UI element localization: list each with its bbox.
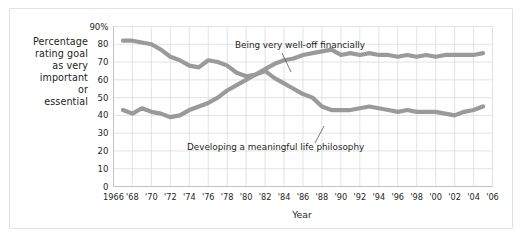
x-tick-label: '02 <box>448 192 461 202</box>
x-tick-label: '82 <box>259 192 272 202</box>
x-tick-label: '86 <box>297 192 310 202</box>
x-axis-tick-labels: 1966'68'70'72'74'76'78'80'82'84'86'88'90… <box>103 192 499 202</box>
annotation-leader-line <box>315 126 324 143</box>
x-tick-label: '94 <box>372 192 385 202</box>
y-tick-label: 60 <box>98 75 109 85</box>
x-tick-label: '78 <box>221 192 234 202</box>
x-tick-label: '92 <box>354 192 367 202</box>
x-tick-label: '72 <box>164 192 177 202</box>
y-tick-label: 80 <box>98 39 109 49</box>
y-tick-label: 90% <box>89 22 108 32</box>
x-tick-label: '68 <box>126 192 139 202</box>
y-tick-label: 10 <box>98 164 109 174</box>
series-annotations: Being very well-off financiallyDevelopin… <box>187 40 365 152</box>
x-tick-label: '76 <box>202 192 215 202</box>
x-tick-label: '80 <box>240 192 253 202</box>
chart-plot: 90%80706050403020100 1966'68'70'72'74'76… <box>0 0 522 237</box>
y-tick-label: 20 <box>98 146 109 156</box>
x-tick-label: 1966 <box>103 192 124 202</box>
y-tick-label: 40 <box>98 110 109 120</box>
y-tick-label: 30 <box>98 128 109 138</box>
chart-figure: Percentage rating goal as very important… <box>0 0 522 237</box>
series-label-philosophy: Developing a meaningful life philosophy <box>187 142 364 152</box>
x-tick-label: '88 <box>316 192 329 202</box>
vertical-gridlines <box>114 27 493 187</box>
y-tick-label: 0 <box>103 182 108 192</box>
x-tick-label: '06 <box>486 192 499 202</box>
x-tick-label: '74 <box>183 192 196 202</box>
y-tick-label: 70 <box>98 57 109 67</box>
x-tick-label: '04 <box>467 192 480 202</box>
y-tick-label: 50 <box>98 93 109 103</box>
y-axis-tick-labels: 90%80706050403020100 <box>89 22 108 192</box>
x-tick-label: '96 <box>391 192 404 202</box>
x-tick-label: '00 <box>429 192 442 202</box>
x-tick-label: '70 <box>145 192 158 202</box>
x-tick-label: '84 <box>278 192 291 202</box>
x-tick-label: '98 <box>410 192 423 202</box>
x-axis-label: Year <box>291 209 312 220</box>
x-tick-label: '90 <box>335 192 348 202</box>
series-label-financial: Being very well-off financially <box>235 40 365 50</box>
